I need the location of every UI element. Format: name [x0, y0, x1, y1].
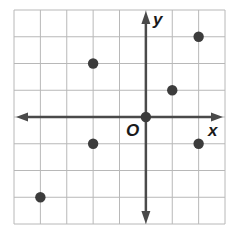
origin-label: O: [126, 121, 139, 140]
y-axis-label: y: [152, 10, 164, 29]
data-point: [193, 32, 203, 42]
y-axis-up-arrow-icon: [141, 11, 150, 24]
y-axis-down-arrow-icon: [141, 211, 150, 224]
data-point: [88, 139, 98, 149]
coordinate-plane: y x O: [0, 0, 226, 235]
data-point: [193, 139, 203, 149]
x-axis-left-arrow-icon: [16, 113, 28, 122]
data-point: [88, 58, 98, 68]
data-point: [167, 85, 177, 95]
data-point: [35, 192, 45, 202]
x-axis-label: x: [207, 121, 219, 140]
data-point: [141, 112, 151, 122]
